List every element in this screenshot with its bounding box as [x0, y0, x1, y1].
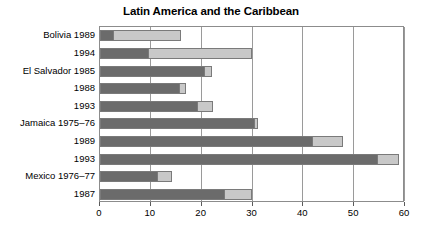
value-axis: 0102030405060 — [99, 202, 404, 224]
chart-figure: Latin America and the Caribbean Bolivia … — [0, 0, 422, 236]
x-tick — [404, 202, 405, 206]
category-label: 1987 — [0, 188, 95, 199]
category-label: Mexico 1976–77 — [0, 170, 95, 181]
bar-segment-light — [113, 30, 182, 41]
bar-segment-light — [312, 136, 343, 147]
bar-segment-light — [377, 154, 399, 165]
x-tick-label: 20 — [195, 207, 206, 218]
x-tick-label: 30 — [246, 207, 257, 218]
x-tick — [302, 202, 303, 206]
bar-segment-light — [224, 189, 253, 200]
bar-segment-dark — [100, 83, 179, 94]
category-label: El Salvador 1985 — [0, 65, 95, 76]
bar-row — [100, 171, 172, 182]
bar-row — [100, 189, 252, 200]
bar-row — [100, 154, 399, 165]
gridline — [404, 27, 405, 201]
bar-segment-light — [157, 171, 172, 182]
x-tick-label: 40 — [297, 207, 308, 218]
bar-row — [100, 101, 213, 112]
category-label: 1988 — [0, 82, 95, 93]
bar-segment-dark — [100, 48, 148, 59]
bar-segment-dark — [100, 101, 197, 112]
bar-segment-dark — [100, 118, 254, 129]
category-label: 1994 — [0, 47, 95, 58]
bar-segment-light — [148, 48, 252, 59]
bar-segment-dark — [100, 136, 312, 147]
bar-segment-dark — [100, 30, 113, 41]
x-tick-label: 0 — [96, 207, 101, 218]
bar-segment-light — [197, 101, 213, 112]
x-tick — [99, 202, 100, 206]
x-tick — [150, 202, 151, 206]
x-tick-label: 10 — [145, 207, 156, 218]
chart-title: Latin America and the Caribbean — [0, 5, 422, 17]
bar-row — [100, 66, 212, 77]
x-tick — [201, 202, 202, 206]
x-tick-label: 50 — [348, 207, 359, 218]
bars-layer — [100, 27, 403, 201]
plot-area — [99, 26, 404, 202]
bar-row — [100, 83, 186, 94]
x-tick — [353, 202, 354, 206]
bar-segment-dark — [100, 171, 157, 182]
bar-segment-dark — [100, 66, 204, 77]
x-tick-label: 60 — [399, 207, 410, 218]
bar-segment-light — [179, 83, 187, 94]
x-tick — [252, 202, 253, 206]
category-label: Jamaica 1975–76 — [0, 117, 95, 128]
bar-row — [100, 118, 258, 129]
category-label: 1993 — [0, 100, 95, 111]
bar-segment-dark — [100, 154, 377, 165]
bar-segment-light — [254, 118, 258, 129]
category-label: 1993 — [0, 153, 95, 164]
bar-row — [100, 136, 343, 147]
bar-row — [100, 30, 181, 41]
category-axis-labels: Bolivia 19891994El Salvador 198519881993… — [0, 26, 95, 202]
category-label: Bolivia 1989 — [0, 29, 95, 40]
bar-row — [100, 48, 252, 59]
bar-segment-light — [204, 66, 212, 77]
bar-segment-dark — [100, 189, 224, 200]
category-label: 1989 — [0, 135, 95, 146]
